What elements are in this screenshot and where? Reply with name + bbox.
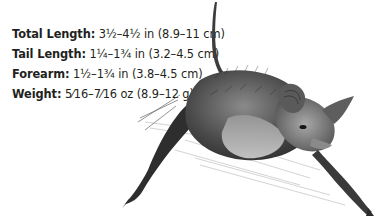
eye bbox=[300, 125, 307, 129]
tail bbox=[212, 2, 232, 82]
bat-illustration bbox=[0, 0, 382, 220]
